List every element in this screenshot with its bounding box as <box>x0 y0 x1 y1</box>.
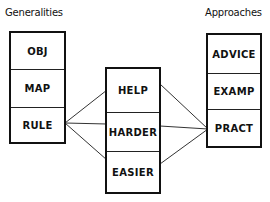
middle-item-easier: EASIER <box>107 151 159 192</box>
right-item-pract: PRACT <box>208 109 260 146</box>
right-title: Approaches <box>205 7 262 18</box>
middle-item-help: HELP <box>107 69 159 112</box>
right-box: ADVICE EXAMP PRACT <box>206 33 262 148</box>
right-item-examp: EXAMP <box>208 73 260 109</box>
left-item-rule: RULE <box>11 107 64 142</box>
left-box: OBJ MAP RULE <box>9 31 66 144</box>
right-item-advice: ADVICE <box>208 35 260 73</box>
left-item-map: MAP <box>11 69 64 107</box>
middle-box: HELP HARDER EASIER <box>105 67 161 194</box>
left-item-obj: OBJ <box>11 33 64 69</box>
middle-item-harder: HARDER <box>107 112 159 151</box>
left-title: Generalities <box>5 7 63 18</box>
